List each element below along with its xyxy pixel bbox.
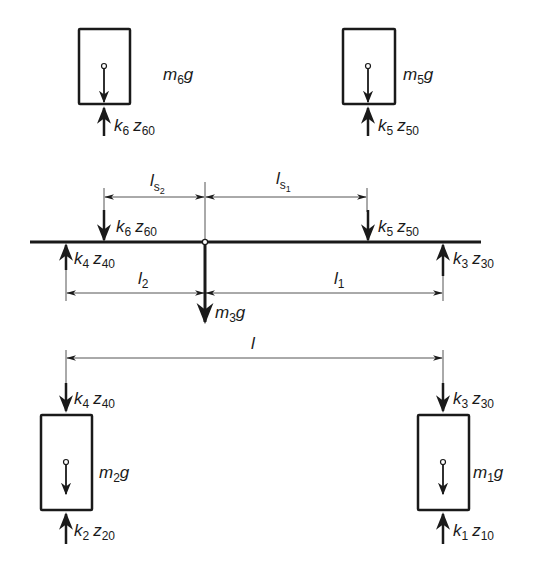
beam-force-k5z50-label: k5z50 [378, 217, 419, 239]
mass-m1-bottom-force-label: k1z10 [453, 521, 494, 543]
mass-m2-top-force-label: k4z40 [74, 389, 115, 411]
dimension-ls2-label: ls2 [150, 171, 165, 196]
beam-force-k6z60-label: k6z60 [116, 217, 157, 239]
beam-section: ls2 ls1 k6z60 k5z50 k4z40 k3z30 l2 l1 m3… [30, 169, 494, 325]
dimension-ls1-label: ls1 [276, 169, 291, 194]
mass-m1-top-force-label: k3z30 [453, 389, 494, 411]
dimension-l-label: l [251, 334, 256, 353]
mass-m5: m5g k5z50 [343, 29, 434, 138]
mass-m2-bottom-force-label: k2z20 [74, 521, 115, 543]
beam-force-k3z30-label: k3z30 [453, 249, 494, 271]
mass-m1-weight-label: m1g [473, 463, 504, 485]
mass-m1: k3z30 m1g k1z10 [418, 383, 504, 544]
dimension-l: l [66, 334, 443, 386]
free-body-diagram: m6g k6z60 m5g k5z50 ls2 ls1 k6z60 k5z50 … [0, 0, 538, 573]
spring-force-k6z60-label: k6z60 [114, 116, 155, 138]
dimension-l1-label: l1 [334, 269, 345, 291]
mass-m6-weight-label: m6g [163, 65, 194, 87]
mass-m2: k4z40 m2g k2z20 [41, 383, 130, 544]
center-of-mass-icon [366, 64, 371, 69]
center-of-mass-icon [64, 460, 69, 465]
dimension-l2-label: l2 [138, 269, 149, 291]
mass-m5-weight-label: m5g [403, 65, 434, 87]
mass-m6: m6g k6z60 [79, 29, 194, 138]
center-of-mass-icon [441, 460, 446, 465]
spring-force-k5z50-label: k5z50 [378, 116, 419, 138]
beam-force-k4z40-label: k4z40 [74, 249, 115, 271]
mass-m2-weight-label: m2g [99, 463, 130, 485]
center-of-mass-icon [102, 64, 107, 69]
beam-center-of-mass-icon [202, 239, 207, 244]
beam-weight-m3g-label: m3g [215, 303, 246, 325]
